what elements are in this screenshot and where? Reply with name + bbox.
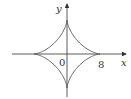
x-intercept-label: 8 [98, 59, 104, 70]
x-axis-label: x [121, 57, 127, 68]
astroid-diagram: y x 0 8 [0, 0, 131, 99]
y-axis-label: y [55, 3, 62, 14]
origin-label: 0 [59, 57, 65, 68]
